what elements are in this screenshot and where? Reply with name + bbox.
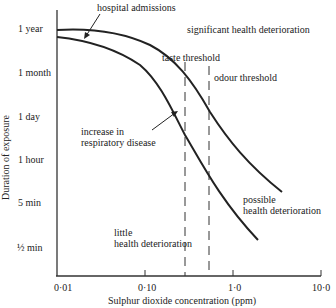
- y-tick-label: 1 month: [18, 67, 51, 78]
- x-tick-label: 0·10: [138, 282, 156, 293]
- x-tick-label: 10·0: [312, 282, 330, 293]
- arrowhead: [171, 111, 178, 117]
- x-tick-label: 1·0: [228, 282, 241, 293]
- x-axis-title: Sulphur dioxide concentration (ppm): [108, 295, 256, 307]
- possible-deterioration-label: possible: [243, 194, 276, 205]
- y-tick-label: 1 day: [18, 111, 40, 122]
- y-tick-label: 5 min: [18, 197, 41, 208]
- y-tick-label: 1 hour: [18, 154, 45, 165]
- y-tick-fraction: ½: [17, 242, 25, 253]
- taste-threshold-label: taste threshold: [162, 52, 220, 63]
- y-tick-label: min: [27, 242, 43, 253]
- chart: 1 year 1 month 1 day 1 hour 5 min ½ min …: [0, 0, 336, 308]
- respiratory-disease-label: increase in: [81, 126, 124, 137]
- x-tick-label: 0·01: [54, 282, 72, 293]
- y-axis-title: Duration of exposure: [0, 114, 11, 200]
- y-tick-label: 1 year: [18, 23, 43, 34]
- respiratory-pointer: [152, 113, 175, 130]
- arrowhead: [84, 32, 90, 39]
- hospital-admissions-pointer: [86, 14, 100, 36]
- little-deterioration-label: health deterioration: [114, 238, 192, 249]
- little-deterioration-label: little: [114, 227, 133, 238]
- possible-deterioration-label: health deterioration: [243, 205, 321, 216]
- significant-deterioration-label: significant health deterioration: [187, 24, 310, 35]
- respiratory-disease-label: respiratory disease: [81, 137, 156, 148]
- odour-threshold-label: odour threshold: [214, 72, 277, 83]
- hospital-admissions-label: hospital admissions: [97, 2, 176, 13]
